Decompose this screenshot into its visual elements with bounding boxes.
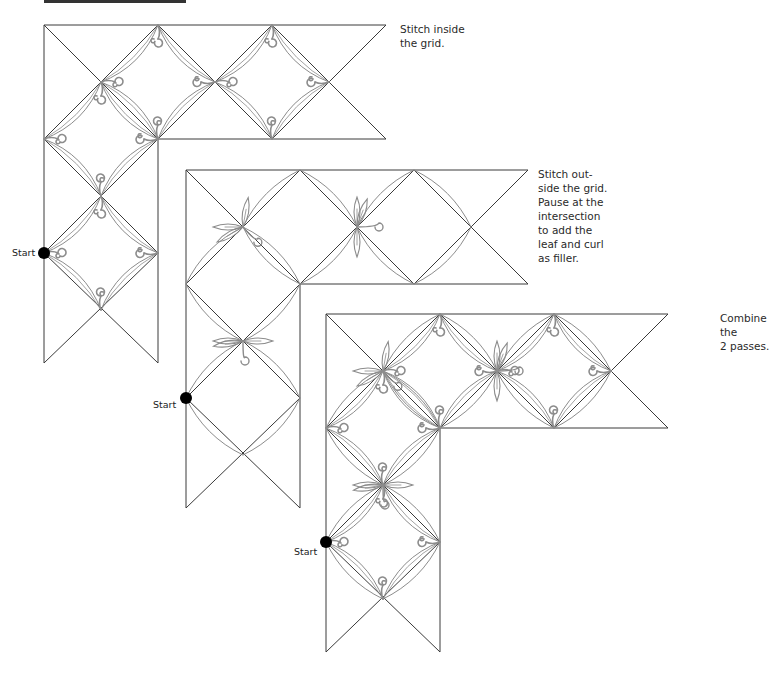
- caption-outside-grid: Stitch out- side the grid. Pause at the …: [538, 167, 607, 265]
- caption-inside-grid: Stitch inside the grid.: [400, 22, 465, 50]
- caption-combined: Combine the 2 passes.: [720, 311, 772, 353]
- start-label-outside: Start: [153, 399, 176, 410]
- start-label-inside: Start: [12, 247, 35, 258]
- diagram-combined: [320, 314, 668, 652]
- quilting-diagram-canvas: [0, 0, 772, 683]
- start-dot: [320, 536, 332, 548]
- start-dot: [38, 247, 50, 259]
- start-label-combined: Start: [294, 546, 317, 557]
- diagram-outside-grid: [180, 170, 528, 508]
- start-dot: [180, 392, 192, 404]
